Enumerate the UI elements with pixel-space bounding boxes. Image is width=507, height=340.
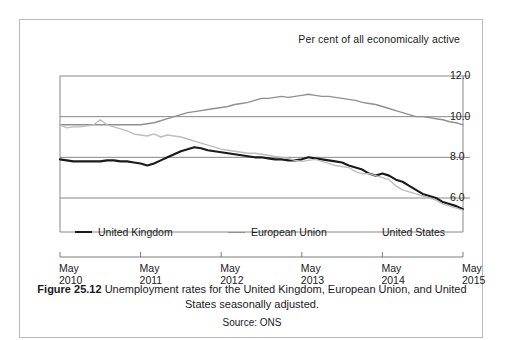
caption-description: Unemployment rates for the United Kingdo… [105, 283, 467, 310]
figure-caption: Figure 25.12 Unemployment rates for the … [34, 282, 470, 330]
legend-label: European Union [251, 226, 327, 238]
legend-label: United Kingdom [98, 226, 173, 238]
series-line-united-states [60, 120, 463, 210]
x-tick-month: May [140, 263, 163, 275]
legend-label: United States [382, 226, 445, 238]
legend-swatch [359, 232, 376, 233]
axis-lines-group [60, 76, 470, 232]
legend-entry: United States [359, 226, 445, 238]
figure-frame: Per cent of all economically active 12.0… [19, 19, 483, 338]
y-tick-label: 12.0 [450, 69, 470, 81]
legend-entry: United Kingdom [75, 226, 228, 238]
gridlines-group [60, 76, 463, 198]
x-tick-month: May [462, 263, 485, 275]
caption-line: Figure 25.12 Unemployment rates for the … [34, 282, 470, 312]
y-tick-label: 8.0 [450, 150, 465, 162]
y-tick-label: 6.0 [450, 191, 465, 203]
caption-source: Source: ONS [34, 315, 470, 330]
series-line-united-kingdom [60, 147, 463, 209]
series-line-european-union [60, 94, 463, 125]
x-tick-month: May [301, 263, 324, 275]
legend-entry: European Union [228, 226, 359, 238]
chart-region: Per cent of all economically active 12.0… [20, 20, 484, 270]
x-axis-group [60, 252, 463, 257]
x-tick-month: May [381, 263, 404, 275]
x-tick-month: May [59, 263, 82, 275]
x-tick-month: May [220, 263, 243, 275]
series-lines-group [60, 94, 463, 210]
legend-swatch [75, 231, 92, 233]
caption-figure-number: Figure 25.12 [37, 283, 101, 295]
legend-swatch [228, 232, 245, 233]
y-tick-label: 10.0 [450, 110, 470, 122]
chart-legend: United KingdomEuropean UnionUnited State… [75, 223, 445, 241]
